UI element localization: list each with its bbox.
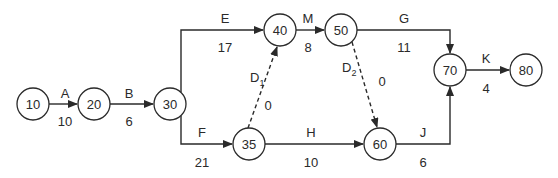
duration-F: 21: [195, 155, 209, 170]
duration-M: 8: [304, 40, 311, 55]
node-60: 60: [364, 128, 396, 160]
node-20: 20: [78, 88, 110, 120]
node-40: 40: [264, 14, 296, 46]
duration-E: 17: [218, 40, 232, 55]
duration-D1: 0: [264, 98, 271, 113]
svg-text:35: 35: [242, 137, 256, 152]
node-80: 80: [510, 54, 542, 86]
svg-text:40: 40: [273, 23, 287, 38]
label-D1: D1: [250, 70, 264, 88]
node-30: 30: [154, 88, 186, 120]
label-J: J: [420, 125, 427, 140]
duration-D2: 0: [378, 74, 385, 89]
svg-text:30: 30: [163, 97, 177, 112]
duration-H: 10: [304, 155, 318, 170]
svg-text:60: 60: [373, 137, 387, 152]
duration-K: 4: [482, 81, 489, 96]
label-E: E: [221, 11, 230, 26]
edge-D2-dummy: [352, 42, 377, 127]
svg-text:80: 80: [519, 63, 533, 78]
label-F: F: [198, 125, 206, 140]
node-10: 10: [17, 88, 49, 120]
node-35: 35: [233, 128, 265, 160]
duration-J: 6: [419, 155, 426, 170]
nodes: 10 20 30 40 50 35 60 70 80: [17, 14, 542, 160]
label-H: H: [306, 125, 315, 140]
label-D2: D2: [342, 60, 356, 78]
svg-text:70: 70: [443, 63, 457, 78]
duration-G: 11: [397, 40, 411, 55]
duration-B: 6: [125, 114, 132, 129]
label-B: B: [125, 86, 134, 101]
edge-F: [181, 116, 232, 144]
label-A: A: [61, 86, 70, 101]
label-K: K: [482, 51, 491, 66]
network-diagram: A 10 B 6 E 17 F 21 M 8 D1 0 H 10 D2 0 G …: [0, 0, 558, 178]
svg-text:20: 20: [87, 97, 101, 112]
label-M: M: [303, 11, 314, 26]
label-G: G: [399, 11, 409, 26]
node-50: 50: [325, 14, 357, 46]
edges: [49, 30, 509, 144]
node-70: 70: [434, 54, 466, 86]
svg-text:10: 10: [26, 97, 40, 112]
duration-A: 10: [58, 114, 72, 129]
svg-text:50: 50: [334, 23, 348, 38]
